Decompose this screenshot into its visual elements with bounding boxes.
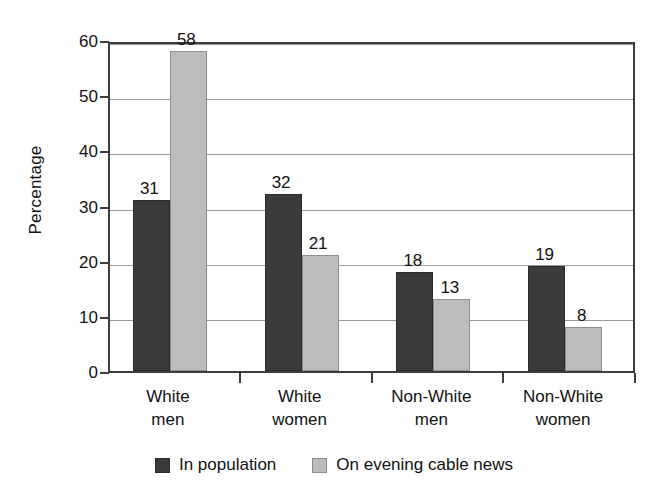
x-category-label: Whitewomen <box>272 385 327 431</box>
bar-chart: Percentage 0102030405060 315832211813198… <box>0 0 668 495</box>
bar-value-label: 21 <box>309 234 328 254</box>
x-tick-mark <box>634 373 636 383</box>
x-tick-mark <box>239 373 241 383</box>
legend-swatch-icon <box>312 458 327 473</box>
y-tick-label: 20 <box>34 253 98 273</box>
bar-on-evening-cable-news <box>170 51 207 371</box>
legend-item-on-evening-cable-news: On evening cable news <box>312 455 513 475</box>
legend: In population On evening cable news <box>0 455 668 475</box>
bar-in-population <box>265 194 302 371</box>
bar-value-label: 18 <box>403 251 422 271</box>
bar-in-population <box>133 200 170 371</box>
legend-swatch-icon <box>155 458 170 473</box>
bar-on-evening-cable-news <box>433 299 470 371</box>
y-tick-label: 60 <box>34 32 98 52</box>
x-tick-mark <box>502 373 504 383</box>
x-category-label: Non-Whitemen <box>391 385 471 431</box>
legend-label: On evening cable news <box>336 455 513 475</box>
y-tick-label: 30 <box>34 198 98 218</box>
bar-in-population <box>396 272 433 371</box>
bar-in-population <box>528 266 565 371</box>
y-tick-label: 50 <box>34 87 98 107</box>
x-tick-mark <box>371 373 373 383</box>
x-category-label: Non-Whitewomen <box>523 385 603 431</box>
bar-value-label: 31 <box>140 179 159 199</box>
legend-item-in-population: In population <box>155 455 276 475</box>
y-tick-label: 40 <box>34 142 98 162</box>
legend-label: In population <box>179 455 276 475</box>
bar-on-evening-cable-news <box>302 255 339 371</box>
bar-on-evening-cable-news <box>565 327 602 371</box>
y-axis-title: Percentage <box>26 110 46 270</box>
bar-value-label: 13 <box>440 278 459 298</box>
bar-value-label: 32 <box>272 173 291 193</box>
plot-area <box>108 42 635 373</box>
bar-value-label: 58 <box>177 30 196 50</box>
x-category-label: Whitemen <box>146 385 189 431</box>
bar-value-label: 19 <box>535 245 554 265</box>
y-tick-label: 0 <box>34 363 98 383</box>
bar-value-label: 8 <box>577 306 586 326</box>
y-tick-label: 10 <box>34 308 98 328</box>
